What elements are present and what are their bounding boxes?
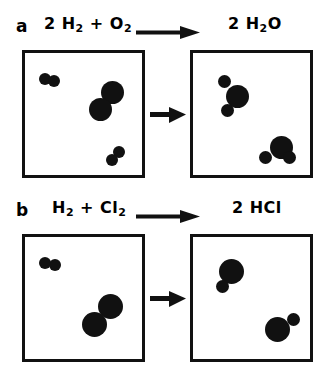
panel-b-letter: b <box>16 202 28 219</box>
reactants-middle: + O <box>84 14 124 33</box>
water-molecule <box>259 136 303 168</box>
oxygen-atom <box>89 98 112 121</box>
hydrogen-atom <box>283 151 296 164</box>
hydrogen-atom <box>287 313 300 326</box>
products-suffix: O <box>268 14 282 33</box>
panel-b-products-box <box>190 234 313 362</box>
panel-b-products-label: 2 HCl <box>232 200 282 216</box>
panel-a-products-label: 2 H2O <box>228 16 282 32</box>
hydrogen-atom <box>48 75 60 87</box>
hydrogen-molecule <box>105 146 129 170</box>
hydrogen-molecule <box>39 255 69 273</box>
hydrogen-atom <box>221 104 234 117</box>
panel-b-short-right-arrow-icon <box>150 291 186 307</box>
chlorine-molecule <box>80 294 128 342</box>
products-subscript: 2 <box>260 22 268 35</box>
reactants-subscript-1: 2 <box>66 206 74 219</box>
long-right-arrow-icon <box>136 26 200 39</box>
hydrogen-atom <box>218 75 231 88</box>
panel-a-reactants-box <box>22 50 145 178</box>
reactants-prefix: 2 H <box>44 14 76 33</box>
long-right-arrow-icon <box>136 210 200 223</box>
hydrogen-atom <box>106 154 118 166</box>
hydrogen-atom <box>216 280 229 293</box>
hydrogen-atom <box>259 151 272 164</box>
panel-b-equation-row: b H2 + Cl2 2 HCl <box>0 184 331 228</box>
reactants-middle: + Cl <box>74 198 118 217</box>
water-molecule <box>215 75 255 119</box>
reaction-figure: a 2 H2 + O2 2 H2O <box>0 0 331 369</box>
oxygen-molecule <box>87 81 131 127</box>
reactants-subscript-2: 2 <box>124 22 132 35</box>
panel-a-reactants-label: 2 H2 + O2 <box>44 16 132 32</box>
chlorine-atom <box>82 312 107 337</box>
panel-a-equation-row: a 2 H2 + O2 2 H2O <box>0 0 331 44</box>
panel-a-products-box <box>190 50 313 178</box>
panel-b: b H2 + Cl2 2 HCl <box>0 184 331 369</box>
panel-a: a 2 H2 + O2 2 H2O <box>0 0 331 185</box>
reactants-subscript-1: 2 <box>76 22 84 35</box>
hydrogen-atom <box>49 259 61 271</box>
panel-a-short-right-arrow-icon <box>150 107 186 123</box>
hydrogen-chloride-molecule <box>265 313 307 341</box>
panel-a-letter: a <box>16 18 27 35</box>
reactants-prefix: H <box>52 198 66 217</box>
reactants-subscript-2: 2 <box>118 206 126 219</box>
hydrogen-molecule <box>39 71 69 89</box>
panel-b-reactants-box <box>22 234 145 362</box>
products-prefix: 2 H <box>228 14 260 33</box>
panel-b-reactants-label: H2 + Cl2 <box>52 200 126 216</box>
hydrogen-chloride-molecule <box>215 259 251 299</box>
